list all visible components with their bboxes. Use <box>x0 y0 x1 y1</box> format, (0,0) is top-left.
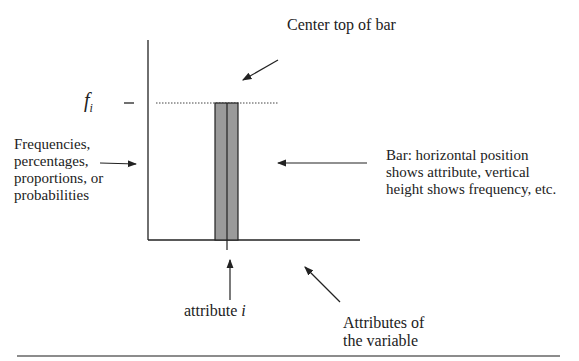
attribute-text: attribute <box>184 302 241 319</box>
fi-label: fi <box>84 92 93 117</box>
arrow-center-top <box>243 60 278 80</box>
x-desc-line: Attributes of <box>343 314 424 332</box>
center-top-label: Center top of bar <box>287 16 396 33</box>
x-desc-line: the variable <box>343 332 424 350</box>
y-axis-description: Frequencies, percentages, proportions, o… <box>14 136 103 204</box>
bar-desc-line: Bar: horizontal position <box>386 147 556 164</box>
bar-desc-line: shows attribute, vertical <box>386 164 556 181</box>
arrow-x-desc <box>305 267 340 302</box>
attribute-label: attribute i <box>184 302 246 319</box>
x-axis-description: Attributes of the variable <box>343 314 424 350</box>
y-desc-line: percentages, <box>14 153 103 170</box>
y-desc-line: proportions, or <box>14 170 103 187</box>
bar-description: Bar: horizontal position shows attribute… <box>386 147 556 198</box>
y-desc-line: probabilities <box>14 187 103 204</box>
attribute-var: i <box>241 302 245 319</box>
fi-sub: i <box>90 101 93 115</box>
y-desc-line: Frequencies, <box>14 136 103 153</box>
bar-chart-diagram: Center top of bar fi Frequencies, percen… <box>0 0 579 361</box>
arrow-y-desc <box>100 163 136 164</box>
bar-desc-line: height shows frequency, etc. <box>386 181 556 198</box>
